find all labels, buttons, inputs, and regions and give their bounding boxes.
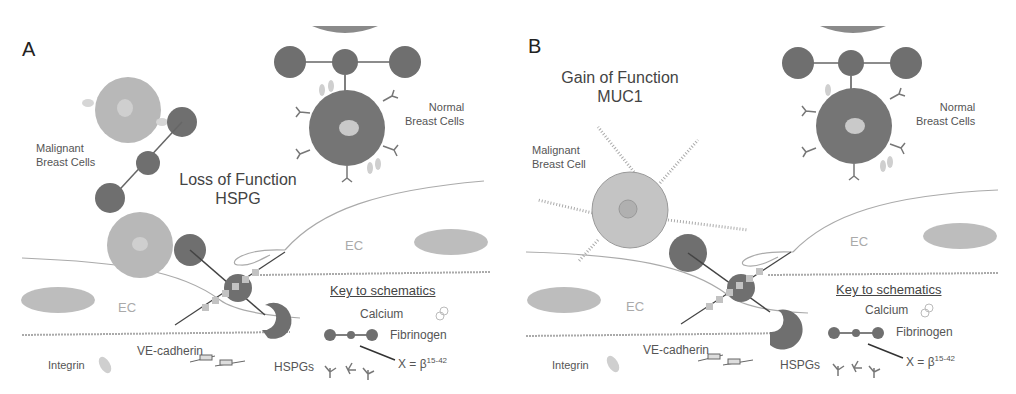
ve-cadherin-label: VE-cadherin [137,344,203,358]
fibrinogen-label: Fibrinogen [896,325,953,339]
integrin-label: Integrin [48,358,85,372]
condition-title: Gain of FunctionMUC1 [560,68,680,106]
calcium-label: Calcium [865,303,908,317]
ec-nucleus [923,223,997,249]
fibrinogen-icon [324,329,378,341]
malignant-label: MalignantBreast Cells [36,141,95,169]
ec-nucleus [527,287,601,313]
panel-letter: B [528,35,541,58]
malignant-label: MalignantBreast Cell [532,143,586,171]
x-definition: X = β15-42 [906,352,955,369]
integrin-icon [96,355,114,376]
x-definition: X = β15-42 [398,354,447,371]
hspgs-label: HSPGs [274,360,314,374]
hspgs-label: HSPGs [780,358,820,372]
ve-cadherin-label: VE-cadherin [643,343,709,357]
key-title: Key to schematics [330,283,436,298]
fibrinogen-node [389,46,421,78]
panel-letter: A [22,38,35,61]
ec-nucleus [414,229,488,255]
integrin-label: Integrin [552,358,589,372]
normal-label: NormalBreast Cells [405,100,464,128]
fibrinogen-label: Fibrinogen [390,328,447,342]
ec-nucleus [21,287,95,313]
panel-b: B Gain of FunctionMUC1 MalignantBreast C… [508,0,1016,394]
hspg-icons [325,363,374,380]
key-title: Key to schematics [836,282,942,297]
fibrinogen-node [332,49,358,75]
ec-label: EC [118,300,136,315]
nucleus [339,120,359,136]
ec-label: EC [626,299,644,314]
ec-label: EC [850,234,868,249]
panel-a: A MalignantBreast Cells NormalBreast Cel… [0,0,508,394]
ec-label: EC [345,238,363,253]
calcium-icon [436,307,448,320]
arrow [360,346,395,360]
calcium-label: Calcium [360,307,403,321]
hspg-cap [262,303,292,339]
condition-title: Loss of FunctionHSPG [178,170,298,208]
normal-label: NormalBreast Cells [916,100,975,128]
fibrinogen-node [274,46,306,78]
